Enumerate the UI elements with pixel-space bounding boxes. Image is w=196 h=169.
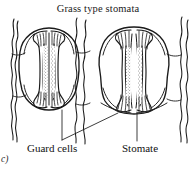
right-pore-stipple bbox=[126, 48, 142, 104]
wall-stub-marks bbox=[12, 51, 181, 105]
label-stomate: Stomate bbox=[122, 142, 158, 155]
guard-cells-leader-right bbox=[62, 113, 118, 140]
right-guard-cells bbox=[116, 30, 153, 112]
left-guard-cells bbox=[33, 31, 64, 108]
right-subsidiary-curves bbox=[101, 33, 167, 113]
stomata-figure: Grass type stomata Guard cells Stomate c… bbox=[0, 0, 196, 169]
leader-lines bbox=[62, 110, 137, 141]
figure-title: Grass type stomata bbox=[0, 3, 196, 15]
label-guard-cells: Guard cells bbox=[27, 142, 77, 155]
figure-index-label: c) bbox=[1, 154, 8, 164]
right-end-striations bbox=[118, 31, 150, 113]
